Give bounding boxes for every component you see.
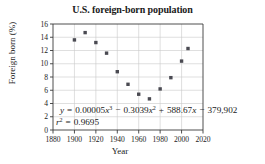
data-point: [186, 47, 189, 50]
eqn-equals: =: [67, 105, 72, 115]
y-tick-labels: 0 2 4 6 8 10 12 14 16: [40, 20, 48, 135]
eqn-coef1: 0.00005: [75, 105, 105, 115]
y-tick-label: 2: [44, 112, 48, 121]
data-point: [116, 70, 119, 73]
x-tick-label: 1980: [153, 135, 168, 144]
eqn-const: 379,902: [207, 105, 237, 115]
regression-equation: y=0.00005x3−0.3039x2+588.67x−379,902: [59, 105, 238, 115]
eqn-op3: −: [199, 105, 204, 115]
eqn-coef2: 0.3039: [123, 105, 149, 115]
plot-area: 0 2 4 6 8 10 12 14 16 1880 1900 1920 194…: [0, 0, 265, 164]
data-point: [73, 38, 76, 41]
x-tick-label: 1960: [131, 135, 146, 144]
x-tick-label: 1880: [45, 135, 60, 144]
x-tick-label: 1920: [88, 135, 103, 144]
chart-figure: U.S. foreign-born population Foreign bor…: [0, 0, 265, 164]
x-axis-ticks: [53, 130, 203, 134]
eqn-exp1: 3: [109, 105, 112, 111]
data-point: [158, 87, 161, 90]
x-tick-labels: 1880 1900 1920 1940 1960 1980 2000 2020: [45, 135, 210, 144]
x-tick-label: 1940: [110, 135, 125, 144]
y-tick-label: 14: [40, 33, 48, 42]
eqn-op1: −: [115, 105, 120, 115]
y-tick-label: 6: [44, 86, 48, 95]
data-point: [105, 51, 108, 54]
x-tick-label: 2020: [195, 135, 210, 144]
y-tick-label: 4: [44, 99, 48, 108]
x-tick-label: 1900: [67, 135, 82, 144]
data-point: [137, 93, 140, 96]
rsq-equals: =: [66, 117, 71, 127]
rsq-exp: 2: [60, 117, 63, 123]
rsq-value: 0.9695: [74, 117, 100, 127]
y-tick-label: 10: [40, 59, 48, 68]
y-tick-label: 12: [40, 46, 48, 55]
y-tick-label: 8: [44, 73, 48, 82]
eqn-op2: +: [159, 105, 164, 115]
eqn-coef3: 588.67: [167, 105, 193, 115]
y-tick-label: 16: [40, 20, 48, 29]
data-point: [180, 59, 183, 62]
data-point: [148, 97, 151, 100]
data-point: [83, 31, 86, 34]
eqn-exp2: 2: [153, 105, 156, 111]
data-point: [94, 41, 97, 44]
data-point: [126, 83, 129, 86]
data-point: [169, 76, 172, 79]
y-tick-label: 0: [44, 126, 48, 135]
x-tick-label: 2000: [174, 135, 189, 144]
